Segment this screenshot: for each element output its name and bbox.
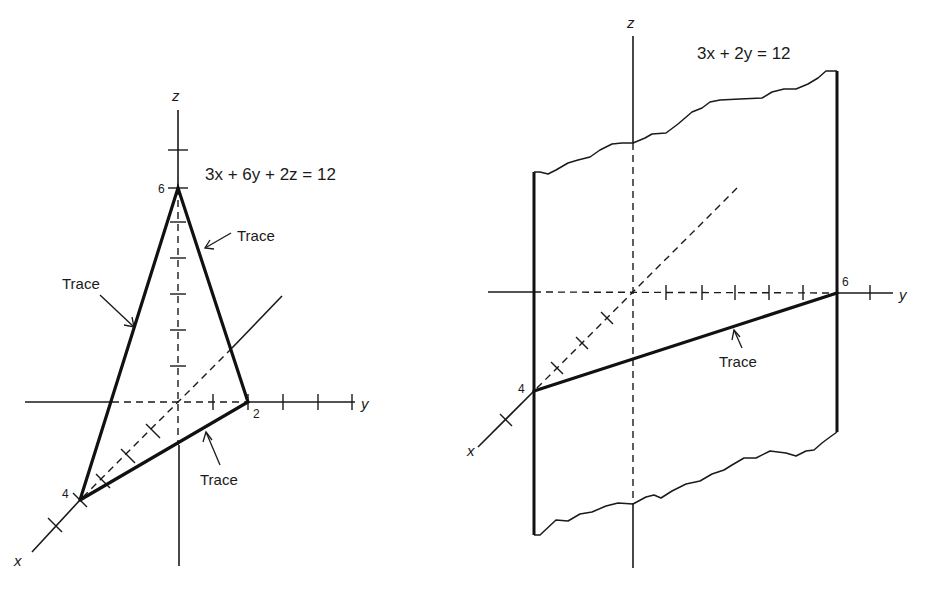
left-trace-label-xy: Trace bbox=[200, 471, 238, 488]
left-figure: z y x 6 2 4 3x + 6y + 2z = 12 Trace Trac… bbox=[13, 87, 370, 569]
left-trace-arrows bbox=[100, 233, 231, 465]
left-trace-label-yz: Trace bbox=[237, 227, 275, 244]
right-x-label: x bbox=[466, 442, 475, 459]
left-trace-label-xz: Trace bbox=[62, 275, 100, 292]
left-x-intercept: 4 bbox=[62, 487, 69, 501]
right-y-axis-hidden bbox=[534, 292, 837, 293]
right-x-axis-pos bbox=[478, 391, 534, 447]
figure-canvas: z y x 6 2 4 3x + 6y + 2z = 12 Trace Trac… bbox=[0, 0, 930, 601]
right-trace-line bbox=[534, 293, 837, 391]
left-x-axis-neg bbox=[232, 296, 282, 348]
right-trace-label: Trace bbox=[719, 353, 757, 370]
right-y-label: y bbox=[898, 286, 908, 303]
left-z-label: z bbox=[171, 87, 180, 104]
left-x-label: x bbox=[13, 552, 22, 569]
right-plane-top-break bbox=[534, 71, 837, 174]
left-equation: 3x + 6y + 2z = 12 bbox=[205, 165, 336, 184]
right-plane-bottom-break bbox=[534, 432, 837, 535]
left-y-label: y bbox=[360, 395, 370, 412]
right-trace-arrow bbox=[732, 330, 742, 348]
right-equation: 3x + 2y = 12 bbox=[697, 44, 791, 63]
right-z-label: z bbox=[626, 14, 635, 31]
left-z-intercept: 6 bbox=[158, 182, 165, 196]
left-y-intercept: 2 bbox=[253, 407, 260, 421]
right-x-intercept: 4 bbox=[518, 382, 525, 396]
left-trace-triangle bbox=[80, 188, 248, 500]
right-y-intercept: 6 bbox=[842, 275, 849, 289]
right-x-axis-hidden bbox=[534, 188, 737, 391]
right-figure: z y x 6 4 3x + 2y = 12 Trace bbox=[466, 14, 908, 568]
